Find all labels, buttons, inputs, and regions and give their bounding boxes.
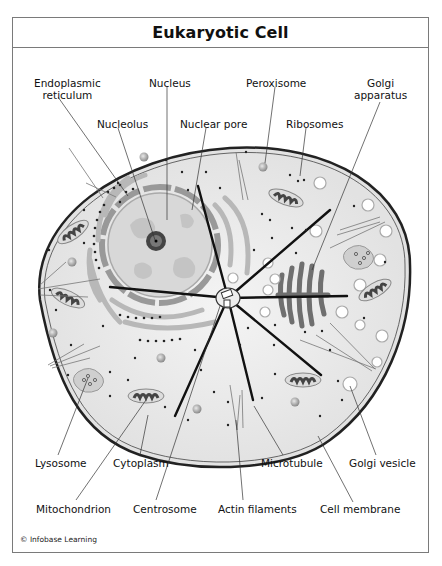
label-actin-filaments: Actin filaments <box>218 503 297 515</box>
label-peroxisome: Peroxisome <box>246 77 306 89</box>
label-golgi-apparatus: Golgi apparatus <box>354 77 407 101</box>
label-golgi-vesicle: Golgi vesicle <box>349 457 416 469</box>
label-centrosome: Centrosome <box>133 503 197 515</box>
label-er-line2: reticulum <box>34 89 101 101</box>
nucleolus <box>146 231 166 251</box>
label-cytoplasm: Cytoplasm <box>113 457 169 469</box>
label-nucleolus: Nucleolus <box>97 118 148 130</box>
label-endoplasmic-reticulum: Endoplasmic reticulum <box>34 77 101 101</box>
label-cell-membrane: Cell membrane <box>320 503 400 515</box>
label-mitochondrion: Mitochondrion <box>36 503 111 515</box>
label-lysosome: Lysosome <box>35 457 87 469</box>
centrosome <box>216 288 240 308</box>
label-golgi-line1: Golgi <box>354 77 407 89</box>
label-ribosomes: Ribosomes <box>286 118 343 130</box>
label-nucleus: Nucleus <box>149 77 191 89</box>
copyright-credit: © Infobase Learning <box>20 535 97 544</box>
label-microtubule: Microtubule <box>261 457 323 469</box>
label-nuclear-pore: Nuclear pore <box>180 118 247 130</box>
label-er-line1: Endoplasmic <box>34 77 101 89</box>
label-golgi-line2: apparatus <box>354 89 407 101</box>
